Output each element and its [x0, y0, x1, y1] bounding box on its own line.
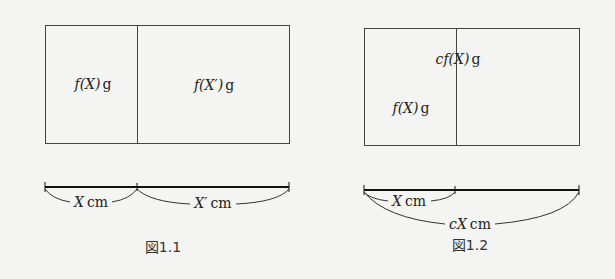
segment-label-cx: cXcm: [449, 216, 491, 232]
figure-1-2: cf(X)g f(X)g Xcm cXcm 図1.2: [364, 29, 580, 254]
brace-left-end: [112, 189, 137, 202]
segment-label-x: Xcm: [391, 193, 426, 209]
figure-caption: 図1.2: [452, 237, 488, 253]
region-label-left: f(X)g: [391, 100, 429, 116]
brace-short-end: [431, 192, 455, 201]
segment-label-x: Xcm: [73, 194, 108, 210]
brace-left-start: [45, 189, 70, 202]
segment-label-x-prime: X′cm: [193, 195, 231, 211]
brace-long-end: [495, 192, 579, 224]
brace-right-end: [236, 189, 289, 204]
region-label-left: f(X)g: [73, 76, 111, 92]
region-label-total: cf(X)g: [436, 51, 481, 67]
figure-1-1: f(X)g f(X′)g Xcm X′cm 図1.1: [45, 26, 290, 256]
diagram-canvas: f(X)g f(X′)g Xcm X′cm 図1.1 cf(X)g f(X)g: [0, 0, 615, 279]
figure-caption: 図1.1: [145, 239, 181, 255]
brace-right-start: [137, 189, 190, 204]
rod-rectangle: [365, 29, 580, 146]
region-label-right: f(X′)g: [193, 77, 234, 93]
